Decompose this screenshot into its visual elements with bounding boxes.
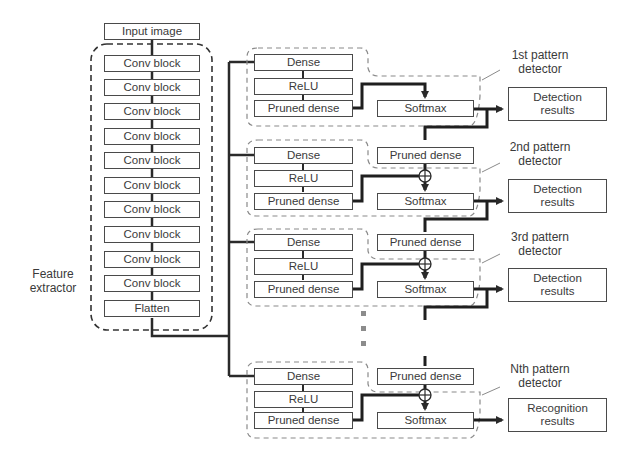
detN-results-line1: Recognition: [527, 402, 588, 415]
det2-results-box: Detection results: [508, 179, 607, 213]
conv-block-6: Conv block: [104, 177, 200, 194]
det2-softmax-box: Softmax: [377, 193, 474, 210]
ellipsis-dot: [361, 311, 366, 316]
det1-label-line2: detector: [494, 62, 586, 76]
conv-block-5: Conv block: [104, 152, 200, 169]
detN-results-box: Recognition results: [508, 398, 607, 432]
detN-label: Nth pattern detector: [494, 362, 586, 391]
det2-results-line1: Detection: [533, 183, 582, 196]
detN-softmax-box: Softmax: [377, 412, 474, 429]
det1-results-line2: results: [541, 104, 575, 117]
feature-extractor-label-line1: Feature: [20, 267, 86, 281]
det3-dense-box: Dense: [254, 234, 353, 251]
conv-block-10: Conv block: [104, 275, 200, 292]
det2-side-pruned-dense-box: Pruned dense: [377, 147, 474, 164]
detN-results-line2: results: [541, 415, 575, 428]
det3-softmax-box: Softmax: [377, 281, 474, 298]
det3-label-line1: 3rd pattern: [494, 230, 586, 244]
det3-results-box: Detection results: [508, 268, 607, 302]
det2-label-line2: detector: [494, 154, 586, 168]
input-image-box: Input image: [104, 23, 200, 40]
detN-dense-box: Dense: [254, 368, 353, 385]
detN-relu-box: ReLU: [254, 391, 353, 408]
det1-label: 1st pattern detector: [494, 48, 586, 77]
detN-side-pruned-dense-box: Pruned dense: [377, 368, 474, 385]
det1-results-line1: Detection: [533, 91, 582, 104]
conv-block-9: Conv block: [104, 251, 200, 268]
det1-pruned-dense-box: Pruned dense: [254, 100, 353, 117]
detN-label-line2: detector: [494, 376, 586, 390]
conv-block-3: Conv block: [104, 103, 200, 120]
det3-label: 3rd pattern detector: [494, 230, 586, 259]
conv-block-8: Conv block: [104, 226, 200, 243]
feature-extractor-label: Feature extractor: [20, 267, 86, 296]
det1-results-box: Detection results: [508, 87, 607, 121]
det2-results-line2: results: [541, 196, 575, 209]
detN-label-line1: Nth pattern: [494, 362, 586, 376]
feature-extractor-label-line2: extractor: [20, 281, 86, 295]
ellipsis-dot: [361, 326, 366, 331]
det3-pruned-dense-box: Pruned dense: [254, 281, 353, 298]
det2-relu-box: ReLU: [254, 170, 353, 187]
det1-label-line1: 1st pattern: [494, 48, 586, 62]
det2-label: 2nd pattern detector: [494, 140, 586, 169]
det2-label-line1: 2nd pattern: [494, 140, 586, 154]
det2-pruned-dense-box: Pruned dense: [254, 193, 353, 210]
conv-block-7: Conv block: [104, 201, 200, 218]
det3-relu-box: ReLU: [254, 258, 353, 275]
det3-label-line2: detector: [494, 244, 586, 258]
ellipsis-dot: [361, 341, 366, 346]
det2-dense-box: Dense: [254, 147, 353, 164]
flatten-box: Flatten: [104, 300, 200, 317]
det3-results-line1: Detection: [533, 272, 582, 285]
det1-relu-box: ReLU: [254, 78, 353, 95]
conv-block-1: Conv block: [104, 55, 200, 72]
detN-pruned-dense-box: Pruned dense: [254, 412, 353, 429]
det1-softmax-box: Softmax: [377, 100, 474, 117]
conv-block-2: Conv block: [104, 79, 200, 96]
det1-dense-box: Dense: [254, 54, 353, 71]
det3-results-line2: results: [541, 285, 575, 298]
conv-block-4: Conv block: [104, 128, 200, 145]
det3-side-pruned-dense-box: Pruned dense: [377, 234, 474, 251]
